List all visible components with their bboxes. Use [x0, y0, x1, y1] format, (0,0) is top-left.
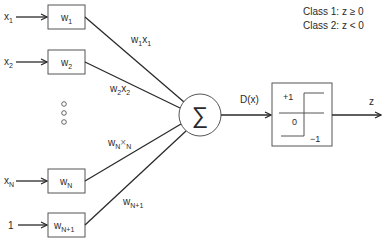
input-row-n: xN wN wN×N: [4, 124, 181, 193]
connection-line-bias: [85, 131, 186, 225]
product-label-1: w1x1: [130, 34, 151, 47]
connection-line-2: [85, 62, 180, 108]
ellipsis-dots: [62, 102, 67, 125]
input-xn-label: xN: [4, 175, 14, 188]
step-function-box: +1 0 −1: [272, 83, 332, 146]
input-x1-label: x1: [4, 11, 13, 24]
activation-box: [272, 83, 332, 146]
class-legend: Class 1: z ≥ 0 Class 2: z < 0: [303, 6, 364, 31]
input-row-2: x2 w2 w2x2: [4, 50, 180, 108]
connection-line-n: [85, 124, 181, 181]
legend-class1: Class 1: z ≥ 0: [303, 6, 364, 17]
input-x2-label: x2: [4, 56, 13, 69]
input-row-bias: 1 wN+1 wN+1: [8, 131, 186, 237]
input-bias-label: 1: [8, 220, 14, 231]
input-row-1: x1 w1 w1x1: [4, 5, 184, 102]
summation-node: ∑: [179, 94, 221, 136]
step-plus-one: +1: [283, 92, 293, 102]
sigma-icon: ∑: [192, 102, 208, 128]
step-minus-one: −1: [310, 134, 320, 144]
step-zero: 0: [292, 117, 297, 127]
connection-line-1: [85, 17, 184, 102]
product-label-2: w2x2: [109, 83, 130, 96]
dx-label: D(x): [240, 94, 259, 105]
product-label-bias: wN+1: [122, 196, 143, 209]
product-label-n: wN×N: [107, 137, 131, 150]
perceptron-diagram: Class 1: z ≥ 0 Class 2: z < 0 x1 w1 w1x1…: [0, 0, 384, 241]
output-z-label: z: [369, 96, 374, 107]
legend-class2: Class 2: z < 0: [303, 20, 364, 31]
